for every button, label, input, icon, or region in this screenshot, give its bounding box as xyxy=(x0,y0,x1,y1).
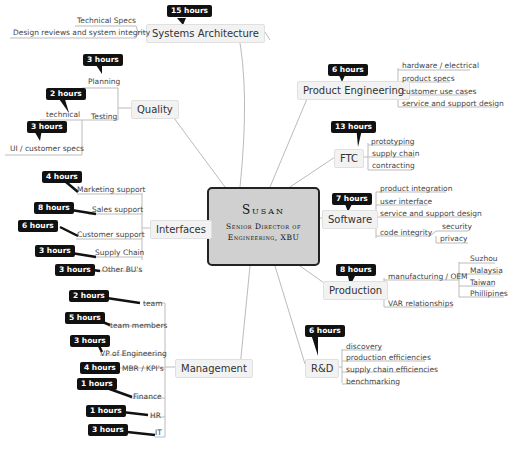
center-name: Susan xyxy=(209,203,318,217)
leaf-service-support-design[interactable]: service and support design xyxy=(380,209,482,219)
leaf-var-relationships[interactable]: VAR relationships xyxy=(388,299,453,309)
leaf-hr[interactable]: HR xyxy=(150,411,161,421)
leaf-production-efficiencies[interactable]: production efficiencies xyxy=(346,353,431,363)
leaf-manufacturing-oem[interactable]: manufacturing / OEM xyxy=(388,272,468,282)
leaf-technical-specs[interactable]: Technical Specs xyxy=(77,16,136,26)
leaf-user-interface[interactable]: user interface xyxy=(380,197,432,207)
hours-badge: 3 hours xyxy=(35,245,75,257)
node-product-engineering[interactable]: Product Engineering xyxy=(297,81,410,100)
hours-badge: 3 hours xyxy=(83,54,123,66)
leaf-mbr-kpis[interactable]: MBR / KPI's xyxy=(122,364,164,374)
hours-badge: 3 hours xyxy=(88,424,128,436)
node-management[interactable]: Management xyxy=(175,359,253,378)
leaf-customer-use-cases[interactable]: customer use cases xyxy=(402,87,477,97)
leaf-phillipines[interactable]: Phillipines xyxy=(470,289,508,299)
hours-badge: 3 hours xyxy=(27,121,67,133)
leaf-team[interactable]: team xyxy=(143,299,162,309)
leaf-it[interactable]: IT xyxy=(155,428,162,438)
leaf-technical[interactable]: technical xyxy=(46,110,80,120)
leaf-design-reviews[interactable]: Design reviews and system integrity xyxy=(13,28,150,38)
hours-badge: 8 hours xyxy=(34,202,74,214)
central-node[interactable]: Susan Senior Director of Engineering, XB… xyxy=(207,187,320,266)
leaf-customer-support[interactable]: Customer support xyxy=(77,230,145,240)
node-production[interactable]: Production xyxy=(323,281,388,300)
hours-badge: 2 hours xyxy=(69,290,109,302)
leaf-product-specs[interactable]: product specs xyxy=(402,74,455,84)
node-rnd[interactable]: R&D xyxy=(305,359,339,378)
leaf-taiwan[interactable]: Taiwan xyxy=(470,278,496,288)
node-systems-architecture[interactable]: Systems Architecture xyxy=(146,24,265,43)
leaf-product-integration[interactable]: product integration xyxy=(380,184,452,194)
leaf-suzhou[interactable]: Suzhou xyxy=(470,254,498,264)
node-ftc[interactable]: FTC xyxy=(334,149,364,168)
hours-badge: 13 hours xyxy=(331,121,376,133)
leaf-security[interactable]: security xyxy=(442,222,472,232)
leaf-privacy[interactable]: privacy xyxy=(440,234,468,244)
leaf-benchmarking[interactable]: benchmarking xyxy=(346,377,400,387)
leaf-discovery[interactable]: discovery xyxy=(346,342,382,352)
leaf-marketing-support[interactable]: Marketing support xyxy=(77,185,146,195)
hours-badge: 3 hours xyxy=(70,335,110,347)
leaf-other-bus[interactable]: Other BU's xyxy=(102,265,142,275)
hours-badge: 6 hours xyxy=(305,325,345,337)
hours-badge: 7 hours xyxy=(332,193,372,205)
hours-badge: 4 hours xyxy=(80,362,120,374)
leaf-planning[interactable]: Planning xyxy=(88,77,120,87)
leaf-testing[interactable]: Testing xyxy=(91,112,117,122)
leaf-sales-support[interactable]: Sales support xyxy=(92,205,143,215)
leaf-team-members[interactable]: team members xyxy=(110,321,167,331)
hours-badge: 2 hours xyxy=(46,88,86,100)
leaf-contracting[interactable]: contracting xyxy=(372,161,415,171)
center-title-line2: Engineering, XBU xyxy=(209,232,318,243)
leaf-prototyping[interactable]: prototyping xyxy=(371,137,415,147)
leaf-code-integrity[interactable]: code integrity xyxy=(380,228,432,238)
hours-badge: 1 hours xyxy=(86,405,126,417)
leaf-ui-customer-specs[interactable]: UI / customer specs xyxy=(10,144,84,154)
mind-map-canvas: Susan Senior Director of Engineering, XB… xyxy=(0,0,517,449)
node-quality[interactable]: Quality xyxy=(131,100,179,119)
leaf-hardware-electrical[interactable]: hardware / electrical xyxy=(402,61,479,71)
node-interfaces[interactable]: Interfaces xyxy=(150,220,212,239)
hours-badge: 15 hours xyxy=(167,5,212,17)
leaf-vp-engineering[interactable]: VP of Engineering xyxy=(100,349,167,359)
leaf-service-support-design[interactable]: service and support design xyxy=(402,99,504,109)
hours-badge: 5 hours xyxy=(65,312,105,324)
hours-badge: 4 hours xyxy=(42,171,82,183)
node-software[interactable]: Software xyxy=(322,210,378,229)
hours-badge: 8 hours xyxy=(336,264,376,276)
leaf-supply-chain-efficiencies[interactable]: supply chain efficiencies xyxy=(346,365,438,375)
leaf-malaysia[interactable]: Malaysia xyxy=(470,266,503,276)
leaf-supply-chain[interactable]: Supply Chain xyxy=(95,248,144,258)
hours-badge: 6 hours xyxy=(18,220,58,232)
hours-badge: 3 hours xyxy=(55,264,95,276)
leaf-finance[interactable]: Finance xyxy=(133,392,162,402)
center-title-line1: Senior Director of xyxy=(209,221,318,232)
hours-badge: 6 hours xyxy=(328,64,368,76)
leaf-supply-chain[interactable]: supply chain xyxy=(372,149,419,159)
hours-badge: 1 hours xyxy=(77,378,117,390)
